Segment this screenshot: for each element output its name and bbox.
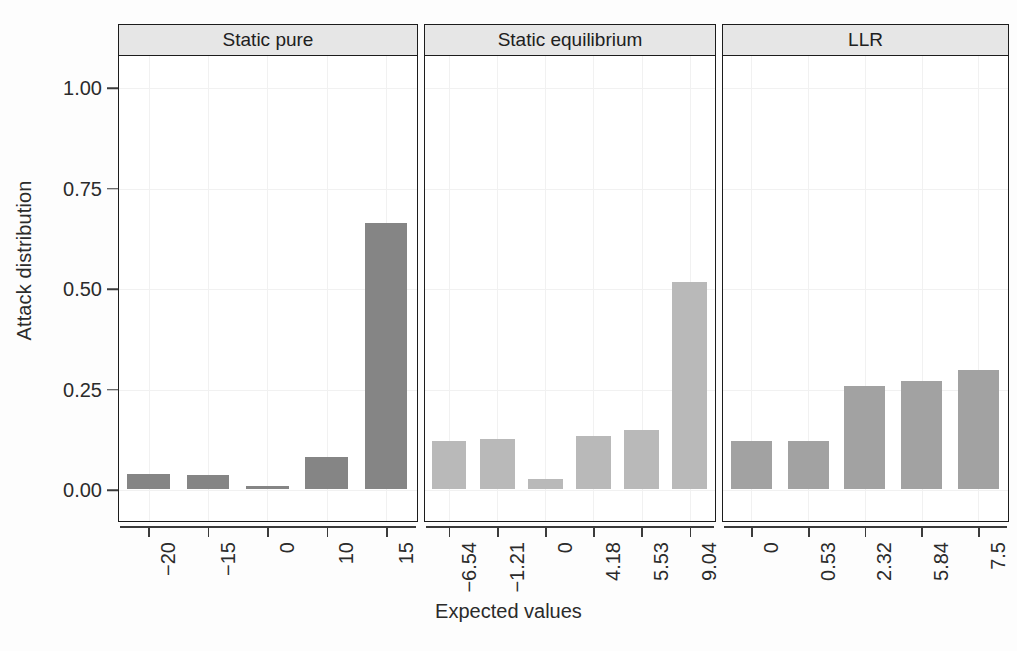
chart-figure: Attack distribution 0.000.250.500.751.00… [0,0,1017,651]
gridline-vertical [545,56,546,521]
gridline-horizontal [425,88,715,89]
bar [576,436,611,489]
x-axis-tick-label: 9.04 [698,542,721,581]
bar [672,282,707,489]
x-axis-tick-label: 7.5 [987,542,1010,570]
bar [788,441,829,489]
x-axis-tick-label: −20 [157,542,180,576]
x-axis-tick-mark [327,526,329,537]
bar [432,441,467,489]
bar [127,474,170,489]
x-axis: −6.54−1.2104.185.539.04 [426,526,715,586]
x-axis-tick-label: 10 [335,542,358,564]
y-axis-tick-mark [107,188,118,190]
facet-panel: LLR [722,24,1009,522]
y-axis-tick-mark [107,389,118,391]
x-axis-tick-mark [921,526,923,537]
x-axis-tick-mark [497,526,499,537]
x-axis-tick-label: 0.53 [817,542,840,581]
x-axis-tick-mark [865,526,867,537]
x-axis-tick-label: 0 [554,542,577,553]
y-axis-tick-label: 0.25 [63,378,102,401]
panel-title-strip: LLR [722,24,1009,56]
panel-title-strip: Static pure [118,24,418,56]
bar [731,441,772,489]
x-axis-tick-label: 15 [395,542,418,564]
x-axis-tick-mark [751,526,753,537]
x-axis-tick-label: −6.54 [458,542,481,593]
panel-plot-area [118,56,418,522]
gridline-horizontal [425,490,715,491]
gridline-vertical [327,56,328,521]
bar [365,223,408,489]
y-axis-tick-mark [107,288,118,290]
x-axis-tick-mark [148,526,150,537]
x-axis-tick-label: 5.53 [650,542,673,581]
x-axis-tick-mark [690,526,692,537]
x-axis-tick-label: −15 [217,542,240,576]
panel-title-text: Static equilibrium [498,29,643,51]
x-axis-tick-label: 4.18 [602,542,625,581]
x-axis-tick-mark [808,526,810,537]
y-axis-title-text: Attack distribution [14,180,37,340]
x-axis: −20−1501015 [120,526,417,586]
x-axis-tick-mark [208,526,210,537]
gridline-vertical [267,56,268,521]
gridline-vertical [208,56,209,521]
x-axis-line [426,526,715,528]
x-axis-tick-mark [386,526,388,537]
y-axis-tick-label: 0.00 [63,479,102,502]
bar [958,370,999,489]
x-axis-tick-label: 5.84 [930,542,953,581]
x-axis-tick-mark [978,526,980,537]
x-axis-tick-label: 2.32 [873,542,896,581]
x-axis-tick-label: 0 [760,542,783,553]
panel-title-text: Static pure [223,29,314,51]
panel-plot-area [722,56,1009,522]
x-axis-tick-mark [641,526,643,537]
x-axis-tick-mark [593,526,595,537]
bar [187,475,230,489]
gridline-vertical [149,56,150,521]
y-axis-tick-mark [107,489,118,491]
facet-panel: Static pure [118,24,418,522]
bar [624,430,659,489]
y-axis-tick-label: 0.50 [63,278,102,301]
x-axis-tick-mark [267,526,269,537]
y-axis-tick-label: 0.75 [63,177,102,200]
x-axis-title: Expected values [0,600,1017,623]
x-axis: 00.532.325.847.5 [724,526,1008,586]
panel-title-strip: Static equilibrium [424,24,716,56]
x-axis-tick-label: 0 [276,542,299,553]
x-axis-tick-mark [545,526,547,537]
x-axis-tick-label: −1.21 [506,542,529,593]
panel-title-text: LLR [848,29,883,51]
bar [480,439,515,489]
bar [528,479,563,489]
y-axis: 0.000.250.500.751.00 [42,0,118,651]
y-axis-tick-label: 1.00 [63,77,102,100]
panel-plot-area [424,56,716,522]
x-axis-tick-mark [449,526,451,537]
facet-panel: Static equilibrium [424,24,716,522]
y-axis-tick-mark [107,87,118,89]
gridline-horizontal [425,189,715,190]
bar [844,386,885,489]
y-axis-title: Attack distribution [8,0,42,520]
bar [901,381,942,489]
bar [305,457,348,489]
bar [246,486,289,489]
